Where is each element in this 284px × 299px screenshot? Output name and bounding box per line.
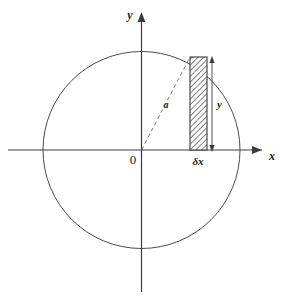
hatched-strip (190, 57, 207, 150)
strip-height-label: y (215, 98, 222, 110)
x-axis-arrowhead (252, 146, 262, 154)
circle-diagram-svg: y x 0 a y δx (0, 0, 284, 299)
y-axis-label: y (125, 8, 133, 22)
figure-container: y x 0 a y δx (0, 0, 284, 299)
height-dimension-arrow-top (209, 56, 214, 63)
origin-label: 0 (130, 152, 137, 167)
strip-width-label: δx (192, 155, 204, 167)
height-dimension-arrow-bottom (209, 145, 214, 152)
y-axis-arrowhead (138, 12, 146, 22)
x-axis-label: x (268, 149, 275, 163)
radius-label: a (164, 99, 169, 110)
